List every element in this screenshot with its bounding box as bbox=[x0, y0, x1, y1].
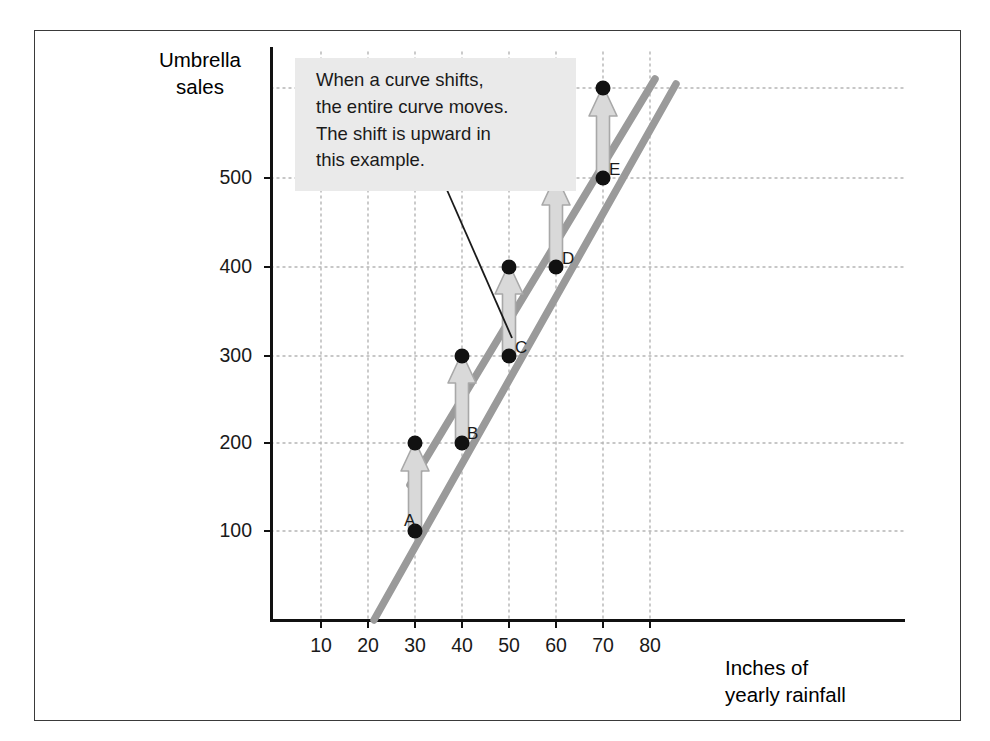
callout-line-1: When a curve shifts, bbox=[316, 67, 508, 94]
y-tick-label-500: 500 bbox=[196, 166, 252, 190]
data-point-a-shifted bbox=[408, 436, 423, 451]
y-tick-label-200: 200 bbox=[196, 431, 252, 455]
callout-line-4: this example. bbox=[316, 147, 508, 174]
callout-text: When a curve shifts, the entire curve mo… bbox=[316, 67, 508, 174]
figure-root: When a curve shifts, the entire curve mo… bbox=[0, 0, 990, 741]
x-axis-title: Inches of yearly rainfall bbox=[725, 655, 925, 708]
data-point-e-shifted bbox=[596, 81, 611, 96]
point-label-c: C bbox=[515, 338, 527, 359]
x-tick-label-70: 70 bbox=[583, 634, 623, 658]
point-label-d: D bbox=[562, 249, 574, 270]
x-tick-label-10: 10 bbox=[301, 634, 341, 658]
x-tick-label-40: 40 bbox=[442, 634, 482, 658]
x-tick-label-80: 80 bbox=[630, 634, 670, 658]
data-point-c-shifted bbox=[502, 260, 517, 275]
data-point-b-shifted bbox=[455, 349, 470, 364]
callout-line-2: the entire curve moves. bbox=[316, 94, 508, 121]
x-tick-label-50: 50 bbox=[489, 634, 529, 658]
y-tick-label-300: 300 bbox=[196, 344, 252, 368]
x-tick-label-60: 60 bbox=[536, 634, 576, 658]
point-label-b: B bbox=[467, 424, 478, 445]
x-axis-title-line-2: yearly rainfall bbox=[725, 682, 925, 709]
point-label-e: E bbox=[609, 160, 620, 181]
point-label-a: A bbox=[404, 511, 415, 532]
x-tick-label-30: 30 bbox=[395, 634, 435, 658]
y-axis-title-line-1: Umbrella bbox=[126, 47, 274, 74]
y-axis-title: Umbrella sales bbox=[126, 47, 274, 100]
x-axis-title-line-1: Inches of bbox=[725, 655, 925, 682]
y-tick-label-100: 100 bbox=[196, 519, 252, 543]
y-axis-title-line-2: sales bbox=[126, 74, 274, 101]
y-tick-label-400: 400 bbox=[196, 255, 252, 279]
callout-line-3: The shift is upward in bbox=[316, 121, 508, 148]
x-tick-label-20: 20 bbox=[348, 634, 388, 658]
